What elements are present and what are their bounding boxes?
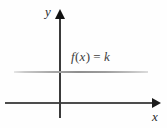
- x-axis-line: [5, 102, 156, 104]
- y-axis-label: y: [45, 5, 51, 18]
- x-axis-label: x: [152, 110, 158, 123]
- constant-function-line: [14, 71, 148, 73]
- y-axis-arrow-icon: [55, 9, 65, 19]
- x-axis-arrow-icon: [152, 98, 161, 108]
- y-axis-line: [59, 18, 61, 118]
- constant-function-figure: y x f(x)=k: [0, 0, 167, 128]
- equals-sign: =: [90, 49, 104, 64]
- function-equation-label: f(x)=k: [71, 50, 110, 63]
- function-constant: k: [104, 49, 110, 64]
